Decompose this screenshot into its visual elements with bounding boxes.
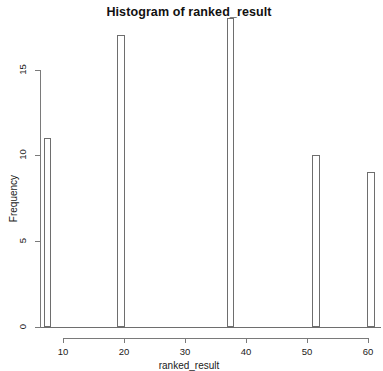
x-axis-tick	[185, 338, 186, 343]
y-axis-tick	[35, 155, 40, 156]
x-axis-label: ranked_result	[0, 360, 378, 371]
y-axis-tick	[35, 241, 40, 242]
y-axis-tick-label: 15	[17, 58, 28, 80]
histogram-bar	[312, 155, 319, 327]
x-axis-tick	[63, 338, 64, 343]
histogram-bar	[227, 18, 234, 327]
histogram-bar	[117, 35, 124, 327]
x-axis-tick-label: 10	[48, 346, 78, 357]
histogram-bar	[367, 172, 374, 327]
x-axis-line	[63, 338, 369, 339]
page-title: Histogram of ranked_result	[0, 5, 378, 19]
y-axis-tick	[35, 70, 40, 71]
y-axis-tick-label: 10	[17, 144, 28, 166]
x-axis-tick	[368, 338, 369, 343]
y-axis-tick-label: 5	[17, 229, 28, 251]
x-axis-tick	[246, 338, 247, 343]
x-axis-tick-label: 40	[231, 346, 261, 357]
y-axis-tick-label: 0	[17, 315, 28, 337]
x-axis-tick-label: 50	[292, 346, 322, 357]
x-axis-tick-label: 60	[353, 346, 383, 357]
y-axis-line	[40, 70, 41, 328]
x-axis-tick	[124, 338, 125, 343]
x-axis-tick-label: 20	[109, 346, 139, 357]
x-axis-tick	[307, 338, 308, 343]
x-axis-tick-label: 30	[170, 346, 200, 357]
y-axis-label: Frequency	[8, 169, 19, 229]
histogram-bar	[44, 138, 51, 327]
bar-baseline	[41, 327, 381, 328]
y-axis-tick	[35, 327, 40, 328]
